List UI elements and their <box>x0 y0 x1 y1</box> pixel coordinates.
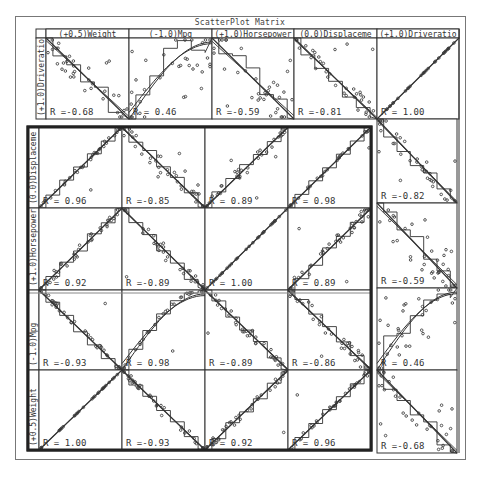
cell-horsepower-vs-mpg[interactable]: R =-0.89 <box>122 208 205 290</box>
cell-displacement-vs-displacement[interactable]: R = 0.98 <box>288 127 371 208</box>
correlation-label: R =-0.81 <box>298 107 341 117</box>
correlation-label: R = 0.89 <box>209 196 252 206</box>
column-header-displacement[interactable]: (0.0)Displaceme <box>299 30 371 39</box>
cell-displacement-vs-driveratio[interactable]: R =-0.82 <box>377 119 457 203</box>
cell-displacement-vs-mpg[interactable]: R =-0.85 <box>122 127 205 208</box>
correlation-label: R =-0.59 <box>381 276 424 286</box>
correlation-label: R =-0.59 <box>216 107 259 117</box>
cell-displacement-vs-weight[interactable]: R = 0.96 <box>39 127 122 208</box>
column-header-weight[interactable]: (+0.5)Weight <box>59 30 117 39</box>
cell-mpg-vs-horsepower[interactable]: R =-0.89 <box>205 290 288 370</box>
cell-mpg-vs-mpg[interactable]: R = 0.98 <box>122 290 205 370</box>
correlation-label: R =-0.89 <box>126 278 169 288</box>
correlation-label: R =-0.68 <box>381 441 424 451</box>
cell-horsepower-vs-horsepower[interactable]: R = 1.00 <box>205 208 288 290</box>
row-label-displacement[interactable]: (0.0)Displaceme <box>29 132 38 204</box>
cell-driveratio-vs-horsepower[interactable]: R =-0.59 <box>212 38 294 119</box>
correlation-label: R =-0.82 <box>381 191 424 201</box>
cell-horsepower-vs-displacement[interactable]: R = 0.89 <box>288 208 371 290</box>
cell-weight-vs-driveratio[interactable]: R =-0.68 <box>377 370 457 453</box>
cell-horsepower-vs-driveratio[interactable]: R =-0.59 <box>377 203 457 288</box>
correlation-label: R = 0.98 <box>126 358 169 368</box>
column-header-mpg[interactable]: (-1.0)Mpg <box>149 30 193 39</box>
correlation-label: R =-0.85 <box>126 196 169 206</box>
correlation-label: R = 0.89 <box>292 278 335 288</box>
cell-horsepower-vs-weight[interactable]: R = 0.92 <box>39 208 122 290</box>
cell-weight-vs-horsepower[interactable]: R = 0.92 <box>205 370 288 450</box>
cell-weight-vs-mpg[interactable]: R =-0.93 <box>122 370 205 450</box>
correlation-label: R = 0.46 <box>133 107 176 117</box>
correlation-label: R = 0.96 <box>43 196 86 206</box>
cell-weight-vs-displacement[interactable]: R = 0.96 <box>288 370 371 450</box>
correlation-label: R =-0.86 <box>292 358 335 368</box>
cell-driveratio-vs-driveratio[interactable]: R = 1.00 <box>377 38 459 119</box>
correlation-label: R =-0.93 <box>43 358 86 368</box>
correlation-label: R = 0.46 <box>381 358 424 368</box>
cell-driveratio-vs-displacement[interactable]: R =-0.81 <box>294 38 377 119</box>
correlation-label: R =-0.89 <box>209 358 252 368</box>
correlation-label: R = 1.00 <box>43 438 86 448</box>
cell-mpg-vs-driveratio[interactable]: R = 0.46 <box>377 288 457 370</box>
row-label-driveratio: (+1.0)Driveratio <box>37 39 46 116</box>
correlation-label: R = 1.00 <box>381 107 424 117</box>
correlation-label: R = 0.98 <box>292 196 335 206</box>
cell-mpg-vs-weight[interactable]: R =-0.93 <box>39 290 122 370</box>
row-label-horsepower[interactable]: (+1.0)Horsepower <box>29 209 38 286</box>
column-header-horsepower[interactable]: (+1.0)Horsepower <box>214 30 291 39</box>
scatterplot-matrix-window: ScatterPlot Matrix (+1.0)Driveratio(+0.5… <box>0 0 480 483</box>
correlation-label: R = 1.00 <box>209 278 252 288</box>
correlation-label: R =-0.93 <box>126 438 169 448</box>
row-label-weight[interactable]: (+0.5)Weight <box>29 388 38 446</box>
scatterplot-matrix: (+1.0)Driveratio(+0.5)WeightR =-0.68(-1.… <box>0 0 480 483</box>
correlation-label: R = 0.96 <box>292 438 335 448</box>
correlation-label: R = 0.92 <box>43 278 86 288</box>
row-label-mpg[interactable]: (-1.0)Mpg <box>29 322 38 366</box>
correlation-label: R = 0.92 <box>209 438 252 448</box>
cell-driveratio-vs-mpg[interactable]: R = 0.46 <box>129 38 212 119</box>
column-header-driveratio[interactable]: (+1.0)Driveratio <box>379 30 456 39</box>
cell-weight-vs-weight[interactable]: R = 1.00 <box>39 370 122 450</box>
cell-driveratio-vs-weight[interactable]: R =-0.68 <box>46 38 129 119</box>
cell-mpg-vs-displacement[interactable]: R =-0.86 <box>288 290 371 370</box>
correlation-label: R =-0.68 <box>50 107 93 117</box>
cell-displacement-vs-horsepower[interactable]: R = 0.89 <box>205 127 288 208</box>
